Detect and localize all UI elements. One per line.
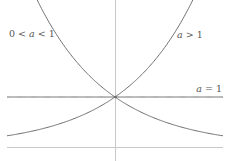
series-label: a = 1 bbox=[196, 83, 222, 94]
series-label: a > 1 bbox=[177, 29, 203, 40]
exponential-chart: 0 < a < 1a > 1a = 1 bbox=[0, 0, 230, 161]
series-label: 0 < a < 1 bbox=[9, 28, 55, 39]
series-line-a-between-0-1 bbox=[36, 0, 223, 136]
series-line-a-greater-1 bbox=[7, 0, 194, 136]
intersection-point bbox=[114, 96, 117, 99]
